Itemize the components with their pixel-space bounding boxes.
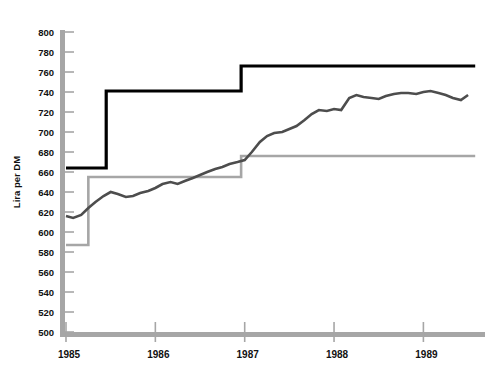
y-tick-label: 740 bbox=[38, 87, 54, 98]
series-line-lower-intervention-limit bbox=[66, 156, 475, 245]
y-axis-title: Lira per DM bbox=[11, 156, 22, 208]
y-tick-label: 660 bbox=[38, 167, 54, 178]
x-tick-label: 1988 bbox=[326, 349, 349, 360]
y-tick-label: 780 bbox=[38, 47, 54, 58]
y-tick-label: 700 bbox=[38, 127, 54, 138]
x-tick-label: 1986 bbox=[147, 349, 170, 360]
y-tick-label: 520 bbox=[38, 307, 54, 318]
series-line-market-exchange-rate bbox=[66, 91, 468, 218]
y-tick-label: 580 bbox=[38, 247, 54, 258]
y-tick-label: 640 bbox=[38, 187, 54, 198]
y-tick-label: 620 bbox=[38, 207, 54, 218]
x-tick-label: 1989 bbox=[415, 349, 438, 360]
line-chart: 5005205405605806006206406606807007207407… bbox=[0, 0, 487, 368]
y-tick-label: 720 bbox=[38, 107, 54, 118]
x-tick-label: 1985 bbox=[58, 349, 81, 360]
y-tick-label: 760 bbox=[38, 67, 54, 78]
y-tick-label: 600 bbox=[38, 227, 54, 238]
x-tick-label: 1987 bbox=[237, 349, 260, 360]
y-tick-label: 680 bbox=[38, 147, 54, 158]
y-tick-label: 500 bbox=[38, 327, 54, 338]
y-tick-label: 800 bbox=[38, 27, 54, 38]
y-tick-label: 560 bbox=[38, 267, 54, 278]
y-tick-label: 540 bbox=[38, 287, 54, 298]
chart-container: 5005205405605806006206406606807007207407… bbox=[0, 0, 487, 368]
series-line-upper-intervention-limit bbox=[66, 66, 475, 168]
